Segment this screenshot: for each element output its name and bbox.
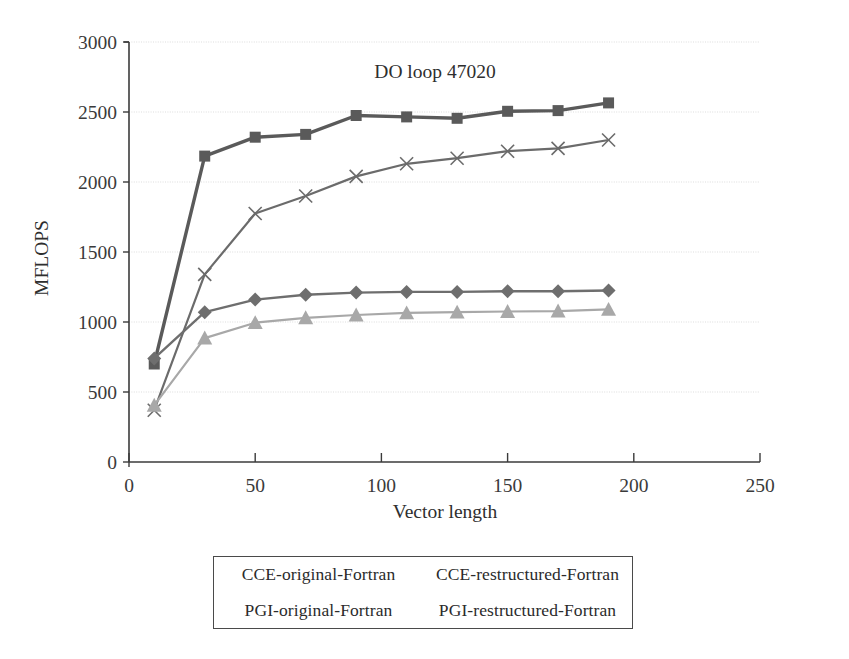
legend-entry-pgi-original: PGI-original-Fortran xyxy=(245,600,393,621)
data-point-square-marker xyxy=(199,151,210,162)
line-chart: 050010001500200025003000050100150200250 … xyxy=(0,0,849,540)
x-tick-label: 150 xyxy=(493,475,522,496)
grid-lines xyxy=(129,42,760,392)
legend-entry-cce-original: CCE-original-Fortran xyxy=(242,564,396,585)
y-tick-label: 0 xyxy=(107,452,117,473)
data-point-x-marker xyxy=(198,268,211,281)
data-point-diamond-marker xyxy=(450,285,464,299)
y-tick-label: 1000 xyxy=(78,312,117,333)
x-tick-label: 200 xyxy=(619,475,648,496)
series-group xyxy=(147,97,616,416)
data-point-diamond-marker xyxy=(551,284,565,298)
x-tick-label: 50 xyxy=(245,475,265,496)
legend-box: CCE-original-Fortran CCE-restructured-Fo… xyxy=(213,556,633,629)
y-axis-title: MFLOPS xyxy=(31,220,52,296)
data-point-square-marker xyxy=(603,97,614,108)
data-point-diamond-marker xyxy=(602,284,616,298)
chart-plot-area: 050010001500200025003000050100150200250 … xyxy=(0,0,849,540)
x-axis-title: Vector length xyxy=(393,501,498,522)
data-point-square-marker xyxy=(300,129,311,140)
x-tick-label: 250 xyxy=(745,475,774,496)
data-point-diamond-marker xyxy=(501,284,515,298)
data-point-x-marker xyxy=(249,207,262,220)
y-tick-label: 2000 xyxy=(78,172,117,193)
x-tick-label: 100 xyxy=(367,475,396,496)
data-point-diamond-marker xyxy=(400,285,414,299)
y-tick-label: 500 xyxy=(88,382,117,403)
data-point-square-marker xyxy=(351,110,362,121)
series-line-triangle xyxy=(154,309,608,405)
legend-entry-pgi-restructured: PGI-restructured-Fortran xyxy=(439,600,616,621)
series-line-square xyxy=(154,103,608,364)
data-point-square-marker xyxy=(401,111,412,122)
data-point-square-marker xyxy=(502,106,513,117)
data-point-diamond-marker xyxy=(248,293,262,307)
data-point-diamond-marker xyxy=(299,288,313,302)
y-tick-label: 1500 xyxy=(78,242,117,263)
series-line-x xyxy=(154,140,608,410)
series-line-diamond xyxy=(154,291,608,359)
data-point-diamond-marker xyxy=(349,286,363,300)
y-tick-label: 3000 xyxy=(78,32,117,53)
legend-entry-cce-restructured: CCE-restructured-Fortran xyxy=(436,564,619,585)
x-tick-label: 0 xyxy=(124,475,134,496)
axes-group xyxy=(123,42,760,467)
data-point-square-marker xyxy=(250,132,261,143)
data-point-square-marker xyxy=(452,113,463,124)
axis-labels-group: 050010001500200025003000050100150200250 xyxy=(78,32,775,496)
y-tick-label: 2500 xyxy=(78,102,117,123)
data-point-square-marker xyxy=(553,105,564,116)
figure-container: 050010001500200025003000050100150200250 … xyxy=(0,0,849,659)
data-point-x-marker xyxy=(299,190,312,203)
chart-title: DO loop 47020 xyxy=(374,61,495,82)
